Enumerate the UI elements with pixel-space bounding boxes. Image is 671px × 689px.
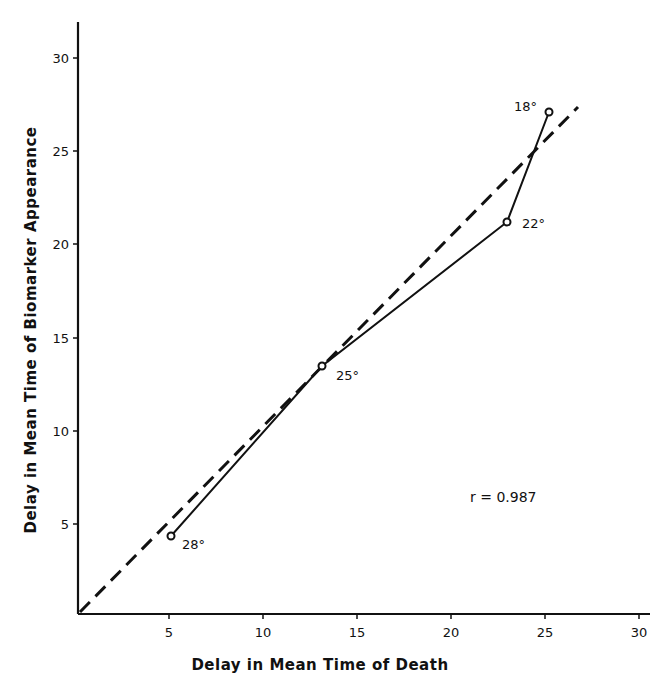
marker-25 — [319, 363, 326, 370]
scatter-line-chart: 5 10 15 20 25 30 5 10 15 20 25 30 Delay … — [0, 0, 671, 689]
y-tick-labels: 5 10 15 20 25 30 — [52, 51, 69, 532]
point-label-25: 25° — [336, 368, 359, 383]
y-tick-label: 15 — [52, 331, 69, 346]
y-tick-label: 5 — [61, 517, 69, 532]
marker-22 — [504, 219, 511, 226]
y-tick-label: 30 — [52, 51, 69, 66]
y-tick-label: 20 — [52, 237, 69, 252]
marker-18 — [546, 109, 553, 116]
x-tick-label: 5 — [165, 625, 173, 640]
point-label-22: 22° — [522, 216, 545, 231]
x-tick-label: 20 — [443, 625, 460, 640]
data-line — [171, 112, 549, 536]
x-tick-label: 15 — [349, 625, 366, 640]
marker-28 — [168, 533, 175, 540]
point-label-18: 18° — [514, 99, 537, 114]
x-tick-labels: 5 10 15 20 25 30 — [165, 625, 647, 640]
y-tick-label: 25 — [52, 144, 69, 159]
y-axis-title: Delay in Mean Time of Biomarker Appearan… — [22, 126, 40, 533]
x-tick-label: 30 — [631, 625, 648, 640]
point-label-28: 28° — [182, 537, 205, 552]
x-tick-label: 10 — [255, 625, 272, 640]
x-tick-label: 25 — [537, 625, 554, 640]
correlation-annotation: r = 0.987 — [470, 489, 536, 505]
x-axis-title: Delay in Mean Time of Death — [191, 656, 448, 674]
y-tick-label: 10 — [52, 424, 69, 439]
